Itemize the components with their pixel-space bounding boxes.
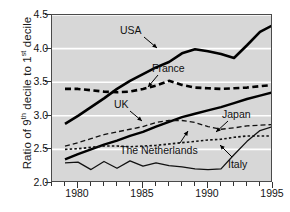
y-tick-mark (45, 81, 51, 82)
y-tick-mark (45, 148, 51, 149)
y-tick-mark (45, 48, 51, 49)
y-tick-mark (45, 14, 51, 15)
x-tick-mark-minor (246, 182, 247, 186)
x-tick-mark-minor (64, 182, 65, 186)
series-line-japan (65, 121, 272, 147)
x-tick-label: 1980 (57, 187, 97, 199)
series-label-japan: Japan (222, 109, 251, 120)
series-label-the-netherlands: The Netherlands (120, 145, 198, 156)
x-tick-mark-minor (103, 182, 104, 186)
x-axis-tick-labels: 1980198519901995 (0, 187, 290, 201)
y-tick-mark (45, 115, 51, 116)
x-tick-mark-minor (233, 182, 234, 186)
x-tick-label: 1995 (252, 187, 290, 199)
x-tick-mark-major (77, 182, 78, 188)
series-label-usa: USA (120, 25, 142, 36)
series-label-uk: UK (114, 99, 129, 110)
x-tick-mark-minor (220, 182, 221, 186)
x-tick-mark-major (272, 182, 273, 188)
series-label-italy: Italy (228, 159, 247, 170)
plot-area: USAFranceUKJapanThe NetherlandsItaly (51, 14, 272, 182)
x-tick-mark-minor (194, 182, 195, 186)
series-lines (52, 15, 272, 182)
x-tick-mark-minor (90, 182, 91, 186)
x-tick-mark-minor (259, 182, 260, 186)
x-tick-mark-major (207, 182, 208, 188)
x-tick-label: 1990 (187, 187, 227, 199)
x-tick-mark-minor (129, 182, 130, 186)
x-tick-label: 1985 (122, 187, 162, 199)
y-tick-mark (45, 182, 51, 183)
y-axis-tick-labels: 2.02.53.03.54.04.5 (20, 0, 48, 212)
x-tick-mark-minor (51, 182, 52, 186)
x-tick-mark-minor (155, 182, 156, 186)
chart-figure: Ratio of 9th decile to 1st decile 2.02.5… (0, 0, 290, 212)
x-tick-mark-minor (181, 182, 182, 186)
x-tick-mark-minor (116, 182, 117, 186)
series-label-france: France (152, 63, 185, 74)
x-tick-mark-minor (168, 182, 169, 186)
x-axis-tick-marks (51, 182, 273, 188)
x-tick-mark-major (142, 182, 143, 188)
